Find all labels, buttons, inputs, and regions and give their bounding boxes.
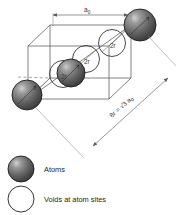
legend-label-voids: Voids at atom sites: [44, 195, 106, 204]
legend-label-atoms: Atoms: [44, 165, 65, 174]
diameter-label-top: 2r: [110, 42, 117, 49]
atom-corner-top-right: [124, 9, 156, 41]
diameter-label-middle: 2r: [84, 58, 91, 65]
diameter-label-lower: 2r: [61, 73, 68, 80]
cell-edge-br: [109, 78, 131, 99]
legend-item-atoms: Atoms: [8, 156, 65, 182]
diagram-canvas: a0 8r = √3 a0 2r 2r 2r Atoms: [0, 0, 192, 215]
dimension-a0-group: a0: [53, 6, 131, 26]
cell-edge-tl: [28, 25, 50, 46]
diagonal-leader-upper: [148, 36, 176, 66]
dimension-a0-label: a0: [84, 6, 91, 15]
legend-void-circle-icon: [8, 186, 34, 212]
diagonal-leader-lower: [36, 108, 84, 158]
bcc-unit-cell-figure: a0 8r = √3 a0 2r 2r 2r Atoms: [0, 0, 192, 215]
dimension-body-diagonal-label: 8r = √3 a0: [108, 94, 135, 120]
legend-item-voids: Voids at atom sites: [8, 186, 106, 212]
dimension-body-diagonal-line: [93, 78, 168, 146]
cell-hidden-edge-back-bottom: [18, 77, 50, 78]
legend: Atoms Voids at atom sites: [8, 156, 106, 212]
atom-corner-bottom-left: [12, 80, 42, 110]
legend-atom-sphere-icon: [8, 156, 34, 182]
